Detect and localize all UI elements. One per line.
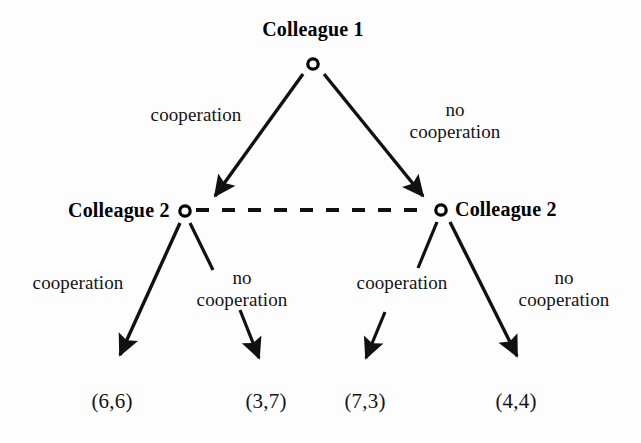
edge-right-cooperation (418, 222, 437, 268)
edge-label-root-no-cooperation-line1: no (445, 99, 464, 120)
edge-label-left-no-cooperation-line1: no (232, 267, 251, 288)
node-left-colleague-2[interactable] (180, 206, 190, 216)
payoff-outcome-3: (7,3) (344, 389, 385, 414)
player-label-left-colleague-2: Colleague 2 (68, 199, 170, 222)
payoff-outcome-4: (4,4) (495, 389, 536, 414)
edge-left-no-cooperation (190, 223, 213, 270)
player-label-colleague-1: Colleague 1 (262, 18, 364, 41)
edge-label-left-no-cooperation-line2: cooperation (197, 289, 288, 310)
edge-right-no-cooperation (450, 222, 517, 356)
edge-label-right-no-cooperation-line2: cooperation (519, 289, 610, 310)
edge-label-root-no-cooperation-line2: cooperation (410, 121, 501, 142)
edge-left-no-cooperation-tail (240, 310, 259, 358)
node-right-colleague-2[interactable] (436, 205, 446, 215)
edge-label-root-cooperation: cooperation (151, 104, 242, 125)
payoff-outcome-1: (6,6) (91, 389, 132, 414)
edge-root-cooperation (215, 74, 303, 196)
player-label-right-colleague-2: Colleague 2 (455, 198, 557, 221)
edge-label-right-no-cooperation-line1: no (554, 267, 573, 288)
game-tree-diagram: Colleague 1 Colleague 2 Colleague 2 coop… (0, 0, 641, 443)
edge-right-cooperation-tail (366, 312, 385, 358)
payoff-outcome-2: (3,7) (245, 389, 286, 414)
edge-root-no-cooperation (324, 74, 423, 196)
edge-left-cooperation (120, 223, 180, 355)
edge-label-right-cooperation: cooperation (357, 272, 448, 293)
edge-label-left-cooperation: cooperation (33, 272, 124, 293)
node-root-colleague-1[interactable] (308, 59, 318, 69)
